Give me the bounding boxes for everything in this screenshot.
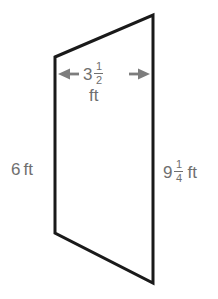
right-whole-number: 9 bbox=[163, 164, 172, 182]
top-fraction-numerator: 1 bbox=[95, 61, 103, 73]
top-fraction-denominator: 2 bbox=[95, 74, 103, 86]
top-measure-row: 3 1 2 bbox=[83, 62, 104, 87]
right-fraction-denominator: 4 bbox=[175, 172, 183, 184]
geometry-figure-svg bbox=[0, 0, 218, 299]
trapezoid-outline bbox=[55, 15, 153, 283]
dimension-label-right: 9 1 4 ft bbox=[163, 160, 197, 185]
left-unit: ft bbox=[23, 161, 32, 179]
dimension-label-left: 6 ft bbox=[11, 161, 33, 179]
left-measure-row: 6 ft bbox=[11, 161, 33, 179]
dimension-label-top: 3 1 2 ft bbox=[83, 62, 104, 105]
top-fraction: 1 2 bbox=[94, 61, 103, 86]
top-unit: ft bbox=[83, 87, 104, 105]
right-fraction-numerator: 1 bbox=[175, 159, 183, 171]
right-fraction: 1 4 bbox=[174, 159, 183, 184]
right-measure-row: 9 1 4 ft bbox=[163, 160, 197, 185]
right-unit: ft bbox=[187, 164, 196, 182]
figure-stage: 3 1 2 ft 6 ft 9 1 4 ft bbox=[0, 0, 218, 299]
top-whole-number: 3 bbox=[83, 66, 92, 84]
left-whole-number: 6 bbox=[11, 161, 20, 179]
